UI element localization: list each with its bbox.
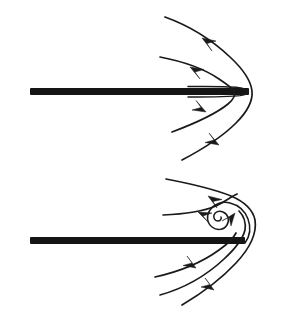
flow-diagram [0,0,285,335]
arrowhead-top-1 [202,38,216,51]
figure-container [0,0,285,335]
arrowhead-top-3 [192,101,206,113]
figure-caption [0,328,285,335]
streamline-bottom-vortex-spiral [208,202,250,243]
arrowhead-bottom-4 [183,256,196,268]
streamline-bottom-inner-upper [163,194,237,215]
arrowhead-bottom-2 [198,212,212,222]
panel-bottom [30,179,255,305]
streamline-bottom-feeder [160,211,245,295]
flat-plate-top [30,88,249,95]
panel-top [30,17,252,160]
flat-plate-bottom [30,237,245,244]
